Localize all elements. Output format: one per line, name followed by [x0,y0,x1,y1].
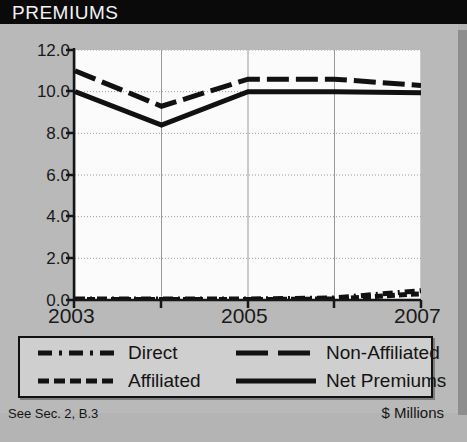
solid-line-key [234,375,318,387]
x-tick-label: 2003 [48,304,95,328]
units-label: $ Millions [381,404,444,421]
chart-screenshot: PREMIUMS 12.0 10.0 8.0 6.0 4.0 2.0 0.0 [0,0,467,442]
legend-item-direct: Direct [36,338,178,367]
legend-label: Direct [128,342,178,364]
source-note: See Sec. 2, B.3 [8,406,98,421]
legend-item-net-premiums: Net Premiums [234,366,446,395]
page-title: PREMIUMS [12,2,118,24]
legend-label: Non-Affiliated [326,342,440,364]
shortdash-line-key [36,375,120,387]
x-axis-labels: 2003 2005 2007 [0,304,458,332]
chart-legend: Direct Non-Affiliated Affiliated [18,336,433,398]
chart-panel: 12.0 10.0 8.0 6.0 4.0 2.0 0.0 [0,24,458,413]
header-bar: PREMIUMS [0,0,467,24]
axis-lines [0,24,458,324]
legend-item-non-affiliated: Non-Affiliated [234,338,440,367]
longdash-line-key [234,347,318,359]
chart-footer: See Sec. 2, B.3 $ Millions [0,402,458,432]
x-tick-label: 2007 [394,304,441,328]
legend-label: Affiliated [128,370,201,392]
legend-label: Net Premiums [326,370,446,392]
legend-item-affiliated: Affiliated [36,366,201,395]
dashdot-line-key [36,347,120,359]
panel-shadow [458,30,467,415]
x-tick-label: 2005 [221,304,268,328]
